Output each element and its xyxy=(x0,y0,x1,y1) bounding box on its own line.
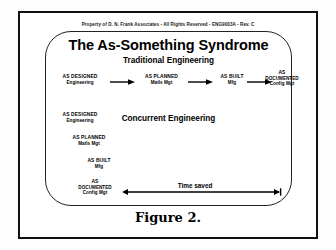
traditional-stage-as-built: AS BUILT Mfg xyxy=(212,74,252,85)
slide-title: The As-Something Syndrome xyxy=(45,37,292,53)
copyright-notice: Property of D. N. Frank Associates - All… xyxy=(18,22,318,28)
concurrent-stage-as-built: AS BUILT Mfg xyxy=(70,158,128,169)
stage-line-2: Mfg xyxy=(70,164,128,170)
traditional-stage-as-documented: AS DOCUMENTED Config Mgt xyxy=(256,70,308,87)
stage-line-2: Mfg xyxy=(212,80,252,86)
concurrent-stage-as-designed: AS DESIGNED Engineering xyxy=(51,112,109,123)
arrow-planned-to-built xyxy=(188,79,213,85)
stage-line-3: Config Mgt xyxy=(66,190,124,196)
arrow-designed-to-planned xyxy=(110,79,135,85)
time-saved-double-arrow xyxy=(122,188,284,196)
stage-line-2: Engineering xyxy=(51,118,109,124)
section-heading-traditional: Traditional Engineering xyxy=(45,56,292,65)
traditional-stage-as-planned: AS PLANNED Matls Mgt xyxy=(134,74,189,85)
concurrent-stage-as-planned: AS PLANNED Matls Mgt xyxy=(60,135,118,146)
stage-line-2: Matls Mgt xyxy=(134,80,189,86)
stage-line-2: Matls Mgt xyxy=(60,141,118,147)
stage-line-2: Engineering xyxy=(51,80,109,86)
stage-line-3: Config Mgt xyxy=(256,81,308,87)
slide-canvas: Property of D. N. Frank Associates - All… xyxy=(0,0,336,250)
concurrent-stage-as-documented: AS DOCUMENTED Config Mgt xyxy=(66,179,124,196)
traditional-stage-as-designed: AS DESIGNED Engineering xyxy=(51,74,109,85)
figure-caption: Figure 2. xyxy=(18,210,318,225)
